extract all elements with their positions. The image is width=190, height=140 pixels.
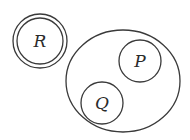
set-q-label: Q [95,93,109,113]
set-q: Q [81,82,123,124]
set-p: P [119,40,161,82]
container-set: P Q [66,30,180,132]
set-r-label: R [33,31,47,51]
set-r: R [13,14,67,68]
set-p-label: P [133,51,146,71]
set-diagram: R P Q [0,0,190,140]
container-ellipse [66,30,180,132]
